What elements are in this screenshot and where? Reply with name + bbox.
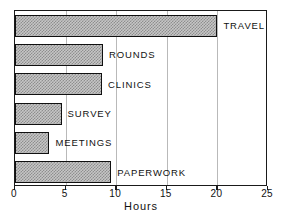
bar	[15, 44, 103, 66]
bar-chart: TRAVELROUNDSCLINICSSURVEYMEETINGSPAPERWO…	[0, 0, 282, 219]
tick-label: 10	[109, 189, 121, 199]
bars-layer: TRAVELROUNDSCLINICSSURVEYMEETINGSPAPERWO…	[15, 11, 266, 185]
bar	[15, 103, 62, 125]
bar-row: PAPERWORK	[15, 161, 186, 183]
bar-label: PAPERWORK	[117, 168, 186, 178]
bar	[15, 15, 217, 37]
tick-label: 0	[11, 189, 17, 199]
bar-row: ROUNDS	[15, 44, 156, 66]
bar-row: TRAVEL	[15, 15, 265, 37]
bar-row: MEETINGS	[15, 132, 112, 154]
bar-row: SURVEY	[15, 103, 112, 125]
tick-label: 20	[211, 189, 223, 199]
bar-label: ROUNDS	[109, 50, 156, 60]
bar-label: TRAVEL	[223, 21, 265, 31]
tick-label: 15	[160, 189, 172, 199]
tick-label: 25	[261, 189, 273, 199]
plot-area: TRAVELROUNDSCLINICSSURVEYMEETINGSPAPERWO…	[14, 10, 267, 186]
bar-row: CLINICS	[15, 73, 152, 95]
bar	[15, 161, 111, 183]
bar-label: MEETINGS	[55, 138, 112, 148]
bar-label: SURVEY	[68, 109, 112, 119]
bar	[15, 73, 102, 95]
x-axis-title: Hours	[0, 200, 282, 212]
tick-label: 5	[62, 189, 68, 199]
bar-label: CLINICS	[108, 80, 152, 90]
bar	[15, 132, 49, 154]
